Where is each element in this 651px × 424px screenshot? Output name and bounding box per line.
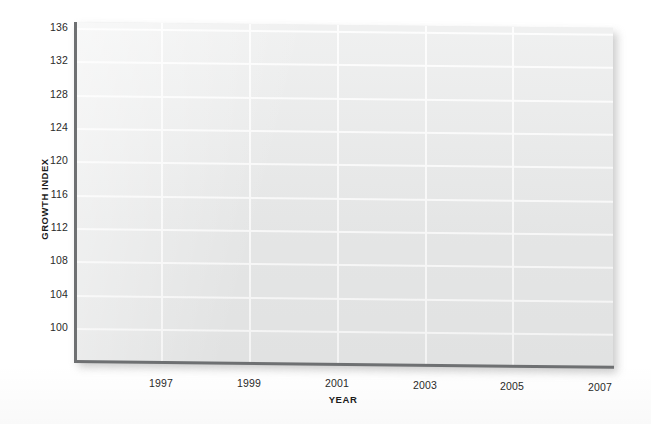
chart-figure: 136 132 128 124 120 116 112 108 104 100 … — [0, 0, 651, 424]
x-tick-label: 1997 — [149, 377, 173, 389]
gridline-horizontal — [74, 61, 613, 69]
gridline-horizontal — [74, 95, 613, 103]
gridline-horizontal — [74, 28, 613, 36]
x-axis-title: YEAR — [329, 394, 358, 405]
y-axis-line — [74, 22, 77, 363]
y-tick-label: 128 — [50, 88, 68, 100]
page-vignette — [0, 364, 651, 424]
gridline-vertical — [512, 27, 514, 367]
x-tick-label: 1999 — [237, 377, 261, 389]
y-axis-tick-labels: 136 132 128 124 120 116 112 108 104 100 — [0, 0, 68, 424]
plot-area — [74, 22, 613, 362]
y-tick-label: 120 — [50, 154, 68, 166]
x-tick-label: 2003 — [413, 379, 437, 391]
gridline-horizontal — [74, 195, 613, 203]
gridline-horizontal — [74, 228, 613, 236]
x-tick-label: 2001 — [325, 377, 349, 389]
gridline-horizontal — [74, 161, 613, 169]
y-tick-label: 136 — [50, 21, 68, 33]
gridline-vertical — [249, 24, 251, 364]
gridline-horizontal — [74, 261, 613, 269]
y-tick-label: 132 — [50, 54, 68, 66]
gridline-horizontal — [74, 295, 613, 303]
y-axis-title: GROWTH INDEX — [39, 49, 50, 349]
y-tick-label: 100 — [50, 321, 68, 333]
gridline-vertical — [425, 26, 427, 366]
gridline-horizontal — [74, 128, 613, 136]
y-tick-label: 116 — [51, 188, 68, 200]
y-tick-label: 104 — [50, 288, 68, 300]
plot-panel — [74, 22, 613, 368]
x-tick-label: 2007 — [588, 381, 612, 393]
gridline-horizontal — [74, 328, 613, 336]
gridline-vertical — [161, 23, 163, 363]
y-tick-label: 108 — [50, 254, 68, 266]
gridline-vertical — [337, 25, 339, 365]
x-tick-label: 2005 — [500, 380, 524, 392]
y-tick-label: 112 — [51, 221, 68, 233]
y-tick-label: 124 — [50, 121, 68, 133]
